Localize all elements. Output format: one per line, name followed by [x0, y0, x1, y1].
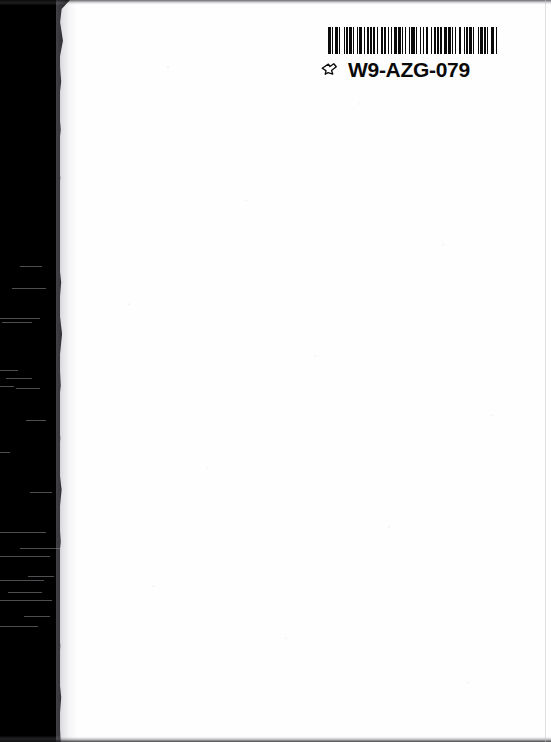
paper-field: [0, 0, 551, 742]
scanned-page-canvas: W9-AZG-079: [0, 0, 551, 742]
barcode-label: W9-AZG-079: [318, 22, 514, 84]
barcode-code-text: W9-AZG-079: [348, 59, 470, 80]
barcode-space: [497, 27, 500, 54]
pointing-hand-icon: [320, 60, 341, 78]
barcode-bars: [328, 27, 500, 54]
barcode-caption-row: W9-AZG-079: [318, 56, 514, 82]
